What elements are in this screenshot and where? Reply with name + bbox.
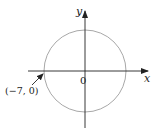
y-axis-label: y: [75, 5, 83, 18]
diagram-canvas: y x 0 (−7, 0): [0, 0, 153, 130]
origin-label: 0: [80, 75, 86, 86]
x-axis-label: x: [144, 72, 151, 85]
point-arrow-icon: [32, 74, 43, 85]
point-label: (−7, 0): [5, 85, 39, 96]
